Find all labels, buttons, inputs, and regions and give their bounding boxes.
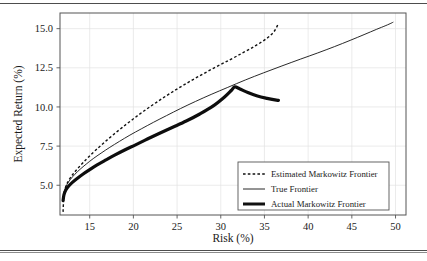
x-tick-label: 50 <box>390 221 401 232</box>
x-tick-label: 30 <box>216 221 227 232</box>
y-tick-label: 15.0 <box>35 23 53 34</box>
y-axis-title: Expected Return (%) <box>12 65 25 162</box>
x-tick-label: 15 <box>84 221 95 232</box>
x-axis-ticks <box>90 215 396 219</box>
x-tick-label: 20 <box>128 221 139 232</box>
y-axis-ticks <box>57 29 61 186</box>
legend-label-2: True Frontier <box>271 184 318 194</box>
y-tick-label: 7.5 <box>40 141 53 152</box>
chart-legend[interactable]: Estimated Markowitz FrontierTrue Frontie… <box>238 162 389 210</box>
x-tick-label: 45 <box>347 221 358 232</box>
y-tick-label: 12.5 <box>35 62 53 73</box>
bottom-divider-rule <box>0 250 427 251</box>
legend-label-3: Actual Markowitz Frontier <box>271 199 366 209</box>
bottom-divider-rule-secondary <box>0 252 427 253</box>
top-divider-rule <box>0 3 427 4</box>
y-tick-labels: 5.07.510.012.515.0 <box>35 23 53 191</box>
efficient-frontier-chart: 1520253035404550 5.07.510.012.515.0 Risk… <box>0 6 427 248</box>
x-tick-label: 25 <box>172 221 183 232</box>
x-axis-title: Risk (%) <box>212 232 253 245</box>
legend-label-1: Estimated Markowitz Frontier <box>271 169 378 179</box>
chart-figure: 1520253035404550 5.07.510.012.515.0 Risk… <box>0 6 427 248</box>
y-tick-label: 10.0 <box>35 102 53 113</box>
figure-page: 1520253035404550 5.07.510.012.515.0 Risk… <box>0 0 427 261</box>
x-tick-label: 40 <box>303 221 314 232</box>
x-tick-label: 35 <box>259 221 270 232</box>
y-tick-label: 5.0 <box>40 180 53 191</box>
x-tick-labels: 1520253035404550 <box>84 221 400 232</box>
